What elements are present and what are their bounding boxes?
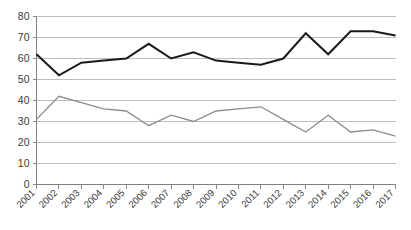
y-tick-label: 60 (18, 52, 30, 64)
x-tick-label: 2005 (104, 187, 127, 210)
y-tick-label: 40 (18, 94, 30, 106)
y-tick-label: 50 (18, 73, 30, 85)
x-tick-label: 2017 (373, 187, 396, 210)
y-tick-label: 80 (18, 10, 30, 22)
x-tick-label: 2013 (283, 187, 306, 210)
x-tick-label: 2004 (81, 187, 104, 210)
x-tick-label: 2007 (149, 187, 172, 210)
chart-canvas: 01020304050607080 2001200220032004200520… (0, 0, 411, 230)
y-tick-label: 30 (18, 115, 30, 127)
y-tick-label-group: 01020304050607080 (18, 10, 30, 190)
data-series-group (37, 31, 396, 136)
x-tick-label: 2008 (171, 187, 194, 210)
series-line-series-gray (37, 96, 396, 136)
x-tick-label: 2010 (216, 187, 239, 210)
x-tick-label: 2016 (351, 187, 374, 210)
x-tick-label: 2006 (126, 187, 149, 210)
y-tick-label: 70 (18, 31, 30, 43)
x-tick-label: 2002 (36, 187, 59, 210)
x-tick-label: 2011 (239, 187, 261, 209)
x-tick-label: 2012 (261, 187, 284, 210)
y-tickmark-group (33, 17, 37, 185)
x-tick-label: 2001 (14, 187, 37, 210)
x-tick-label: 2009 (194, 187, 217, 210)
x-tick-label: 2015 (328, 187, 351, 210)
x-tick-label-group: 2001200220032004200520062007200820092010… (14, 187, 396, 210)
x-tick-label: 2014 (306, 187, 329, 210)
y-tick-label: 10 (18, 157, 30, 169)
line-chart: 01020304050607080 2001200220032004200520… (0, 0, 411, 230)
y-tick-label: 20 (18, 136, 30, 148)
x-tick-label: 2003 (59, 187, 82, 210)
